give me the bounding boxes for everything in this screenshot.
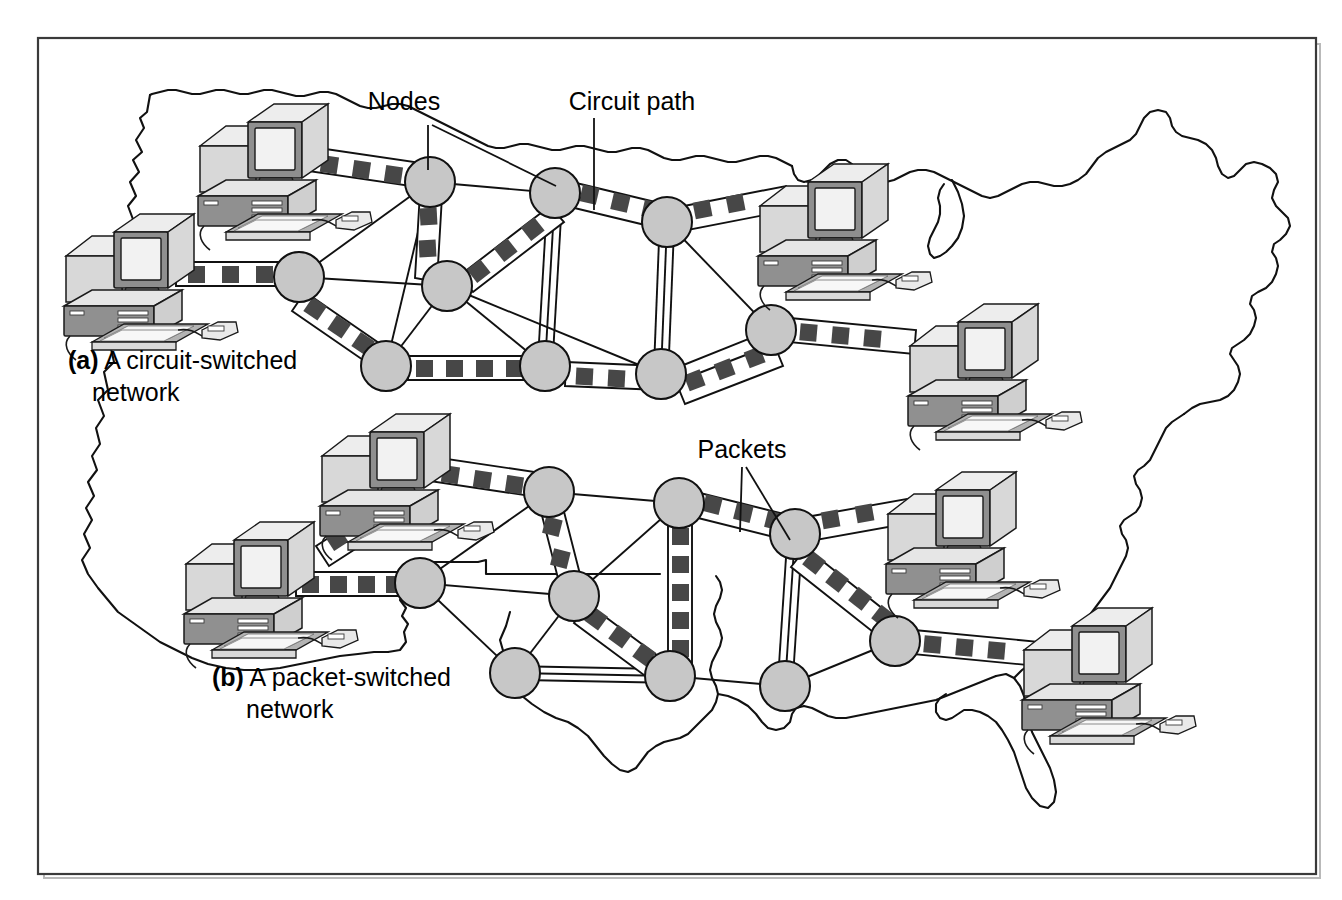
network-node[interactable] bbox=[405, 157, 455, 207]
network-node[interactable] bbox=[395, 558, 445, 608]
network-node[interactable] bbox=[642, 197, 692, 247]
svg-text:(b) A packet-switched: (b) A packet-switched bbox=[212, 663, 451, 691]
svg-text:(a) A circuit-switched: (a) A circuit-switched bbox=[68, 346, 297, 374]
network-node[interactable] bbox=[549, 571, 599, 621]
caption-b-line1: A packet-switched bbox=[244, 663, 451, 691]
network-node[interactable] bbox=[274, 252, 324, 302]
network-node[interactable] bbox=[530, 168, 580, 218]
caption-a-line2: network bbox=[92, 378, 180, 406]
caption-a-line1: A circuit-switched bbox=[99, 346, 298, 374]
packets-label: Packets bbox=[698, 435, 787, 463]
network-node[interactable] bbox=[490, 648, 540, 698]
network-node[interactable] bbox=[636, 349, 686, 399]
network-node[interactable] bbox=[645, 651, 695, 701]
network-node[interactable] bbox=[746, 305, 796, 355]
network-node[interactable] bbox=[361, 341, 411, 391]
caption-a-marker: (a) bbox=[68, 346, 99, 374]
network-node[interactable] bbox=[422, 261, 472, 311]
network-node[interactable] bbox=[654, 478, 704, 528]
network-node[interactable] bbox=[520, 341, 570, 391]
network-figure-canvas: Nodes Circuit path bbox=[0, 0, 1342, 900]
caption-b-marker: (b) bbox=[212, 663, 244, 691]
network-node[interactable] bbox=[524, 467, 574, 517]
caption-b-line2: network bbox=[246, 695, 334, 723]
link-band bbox=[668, 522, 692, 666]
circuit-path-label: Circuit path bbox=[569, 87, 695, 115]
nodes-label: Nodes bbox=[368, 87, 440, 115]
figure-container: Nodes Circuit path bbox=[0, 0, 1342, 900]
network-node[interactable] bbox=[760, 661, 810, 711]
network-node[interactable] bbox=[870, 616, 920, 666]
network-node[interactable] bbox=[770, 509, 820, 559]
